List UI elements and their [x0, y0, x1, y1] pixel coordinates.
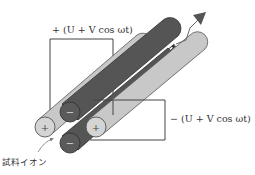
minus-sign: − [66, 138, 74, 149]
negative-voltage-label: − (U + V cos ωt) [170, 113, 251, 124]
plus-sign: + [41, 122, 49, 133]
sample-ion-pointer-icon [38, 139, 52, 152]
plus-sign: + [92, 122, 100, 133]
minus-sign: − [66, 107, 74, 118]
sample-ion-label: 試料イオン [2, 155, 47, 167]
positive-voltage-label: + (U + V cos ωt) [52, 24, 133, 35]
